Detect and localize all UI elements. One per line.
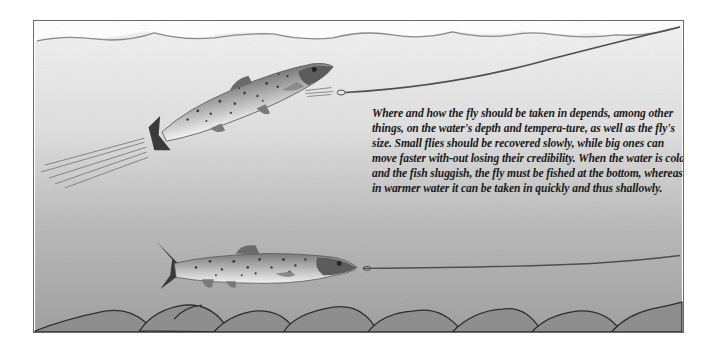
caption-text: Where and how the fly should be taken in… — [372, 107, 684, 196]
illustration-frame: Where and how the fly should be taken in… — [33, 20, 684, 333]
